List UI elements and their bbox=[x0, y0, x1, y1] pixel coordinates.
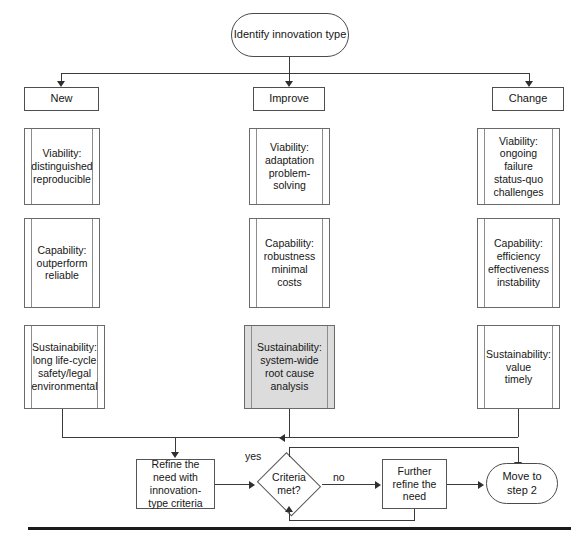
card-improve-sustainability-text: Sustainability: system-wide root cause a… bbox=[257, 341, 322, 392]
node-branch-new[interactable]: New bbox=[24, 87, 99, 111]
arrowhead-to-further-refine bbox=[375, 481, 381, 489]
card-improve-sustainability-highlighted[interactable]: Sustainability: system-wide root cause a… bbox=[244, 325, 335, 409]
card-improve-capability-text: Capability: robustness minimal costs bbox=[264, 237, 315, 288]
edge-refine-to-decision bbox=[215, 484, 251, 485]
card-change-sustainability-text: Sustainability: value timely bbox=[486, 348, 551, 386]
edge-branch-bus bbox=[61, 73, 529, 74]
edge-yes-across bbox=[289, 447, 518, 448]
edge-new-drop bbox=[62, 409, 63, 437]
edge-no-to-further bbox=[322, 484, 377, 485]
node-identify-innovation-type[interactable]: Identify innovation type bbox=[231, 13, 349, 57]
card-new-sustainability[interactable]: Sustainability: long life-cycle safety/l… bbox=[24, 325, 105, 409]
card-change-sustainability[interactable]: Sustainability: value timely bbox=[477, 325, 560, 409]
edge-terminator-stem bbox=[289, 57, 290, 73]
card-improve-viability-text: Viability: adaptation problem- solving bbox=[265, 141, 314, 192]
node-refine-need[interactable]: Refine the need with innovation- type cr… bbox=[136, 459, 215, 509]
card-change-capability-text: Capability: efficiency effectiveness ins… bbox=[488, 237, 549, 288]
flowchart-canvas: Identify innovation type New Improve Cha… bbox=[0, 0, 579, 538]
edge-loop-up bbox=[289, 511, 290, 521]
arrowhead-to-decision bbox=[249, 481, 255, 489]
arrowhead-to-move bbox=[478, 481, 484, 489]
bottom-rule bbox=[28, 527, 571, 530]
node-decision-criteria-met[interactable]: Criteria met? bbox=[256, 456, 322, 512]
card-change-viability[interactable]: Viability: ongoing failure status-quo ch… bbox=[477, 128, 560, 205]
arrowhead-loop-to-decision bbox=[285, 506, 293, 512]
card-change-capability[interactable]: Capability: efficiency effectiveness ins… bbox=[477, 218, 560, 308]
edge-improve-drop bbox=[289, 409, 290, 437]
card-change-viability-text: Viability: ongoing failure status-quo ch… bbox=[493, 135, 543, 199]
card-new-capability-text: Capability: outperform reliable bbox=[37, 244, 88, 282]
arrowhead-to-refine bbox=[171, 452, 179, 458]
card-improve-capability[interactable]: Capability: robustness minimal costs bbox=[249, 218, 330, 308]
node-move-to-step-2[interactable]: Move to step 2 bbox=[486, 463, 558, 504]
edge-further-to-move bbox=[447, 484, 480, 485]
node-branch-improve[interactable]: Improve bbox=[253, 87, 325, 111]
card-new-viability-text: Viability: distinguished reproducible bbox=[31, 147, 92, 185]
node-further-refine-need[interactable]: Further refine the need bbox=[382, 459, 447, 509]
edge-loop-across bbox=[289, 520, 415, 521]
card-new-capability[interactable]: Capability: outperform reliable bbox=[24, 218, 100, 308]
node-branch-change[interactable]: Change bbox=[492, 87, 564, 111]
card-new-sustainability-text: Sustainability: long life-cycle safety/l… bbox=[32, 341, 98, 392]
edge-loop-down bbox=[414, 509, 415, 520]
arrowhead-collector bbox=[279, 434, 285, 442]
edge-change-drop bbox=[518, 409, 519, 437]
edge-collector-rail bbox=[62, 437, 518, 438]
decision-label: Criteria met? bbox=[256, 456, 322, 512]
card-new-viability[interactable]: Viability: distinguished reproducible bbox=[24, 128, 100, 205]
card-improve-viability[interactable]: Viability: adaptation problem- solving bbox=[249, 128, 330, 205]
edge-yes-up bbox=[289, 447, 290, 457]
edge-label-no: no bbox=[333, 471, 345, 483]
